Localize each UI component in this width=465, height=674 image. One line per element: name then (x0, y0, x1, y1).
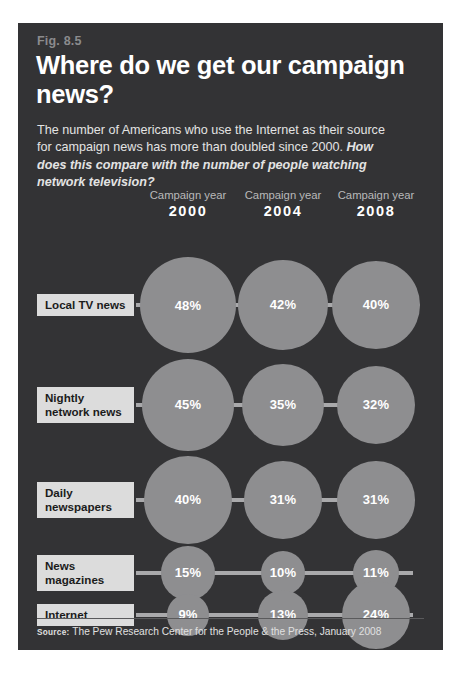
row-label-internet: Internet (37, 604, 134, 626)
bubble-value-label: 40% (363, 297, 390, 312)
data-bubble: 15% (161, 546, 215, 600)
data-bubble: 45% (142, 359, 235, 452)
row-label-text: Internet (45, 608, 88, 622)
bubble-value-label: 42% (270, 297, 297, 312)
bubble-value-label: 15% (175, 565, 202, 580)
row-label-text: Local TV news (45, 298, 126, 312)
bubble-value-label: 31% (270, 492, 297, 507)
footer-divider (37, 618, 424, 619)
data-bubble: 10% (261, 551, 305, 595)
row-label-daily-newspapers: Daily newspapers (37, 482, 134, 518)
source-text: The Pew Research Center for the People &… (70, 626, 382, 637)
row-label-text: News magazines (45, 559, 128, 586)
data-bubble: 48% (140, 257, 236, 353)
data-bubble: 32% (337, 366, 415, 444)
bubble-value-label: 48% (175, 298, 202, 313)
data-bubble: 35% (242, 364, 324, 446)
row-label-news-magazines: News magazines (37, 555, 134, 591)
bubble-value-label: 9% (178, 607, 197, 622)
row-label-text: Nightly network news (45, 391, 128, 418)
data-bubble: 31% (337, 461, 414, 538)
data-bubble: 40% (144, 456, 232, 544)
bubble-chart-plot: 48%42%40%Local TV news45%35%32%Nightly n… (18, 23, 443, 650)
row-label-local-tv-news: Local TV news (37, 294, 134, 316)
bubble-value-label: 35% (270, 397, 297, 412)
bubble-value-label: 24% (363, 607, 390, 622)
bubble-value-label: 32% (363, 397, 390, 412)
bubble-value-label: 40% (175, 492, 202, 507)
bubble-value-label: 31% (363, 492, 390, 507)
source-kicker: Source: (37, 628, 70, 637)
bubble-value-label: 13% (270, 607, 297, 622)
bubble-value-label: 11% (363, 565, 389, 580)
data-bubble: 24% (342, 581, 410, 649)
row-label-nightly-network-news: Nightly network news (37, 387, 134, 423)
data-bubble: 40% (332, 261, 420, 349)
bubble-value-label: 45% (175, 397, 202, 412)
figure-panel: Fig. 8.5 Where do we get our campaign ne… (18, 23, 443, 650)
data-bubble: 31% (244, 461, 321, 538)
source-note: Source: The Pew Research Center for the … (37, 626, 381, 637)
data-bubble: 42% (238, 260, 328, 350)
bubble-value-label: 10% (270, 565, 297, 580)
row-label-text: Daily newspapers (45, 486, 128, 513)
